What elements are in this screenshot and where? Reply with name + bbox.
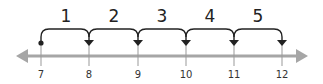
right-arrow-icon [296,49,308,63]
jump-label: 2 [109,6,120,26]
jump-arc-3 [138,29,186,41]
arrowhead-down-icon [277,40,287,46]
jump-arcs [41,29,282,43]
jump-arc-2 [89,29,138,41]
jump-arc-5 [234,29,282,41]
left-arrow-icon [16,49,28,63]
arrowhead-down-icon [181,40,191,46]
jump-label: 4 [205,6,216,26]
arrowhead-down-icon [229,40,239,46]
tick-label: 10 [180,69,193,80]
jump-label: 1 [61,6,72,26]
tick-labels: 7 8 9 10 11 12 [38,69,289,80]
number-line-diagram: 7 8 9 10 11 12 1 2 3 4 5 [0,0,323,84]
tick-label: 12 [276,69,289,80]
jump-arrowheads [84,40,287,46]
jump-label: 5 [253,6,264,26]
jump-arc-4 [186,29,234,41]
tick-label: 11 [228,69,241,80]
jump-labels: 1 2 3 4 5 [61,6,264,26]
tick-label: 7 [38,69,44,80]
jump-label: 3 [157,6,168,26]
tick-label: 9 [135,69,141,80]
jump-arc-1 [41,29,89,43]
tick-label: 8 [86,69,92,80]
arrowhead-down-icon [133,40,143,46]
arrowhead-down-icon [84,40,94,46]
